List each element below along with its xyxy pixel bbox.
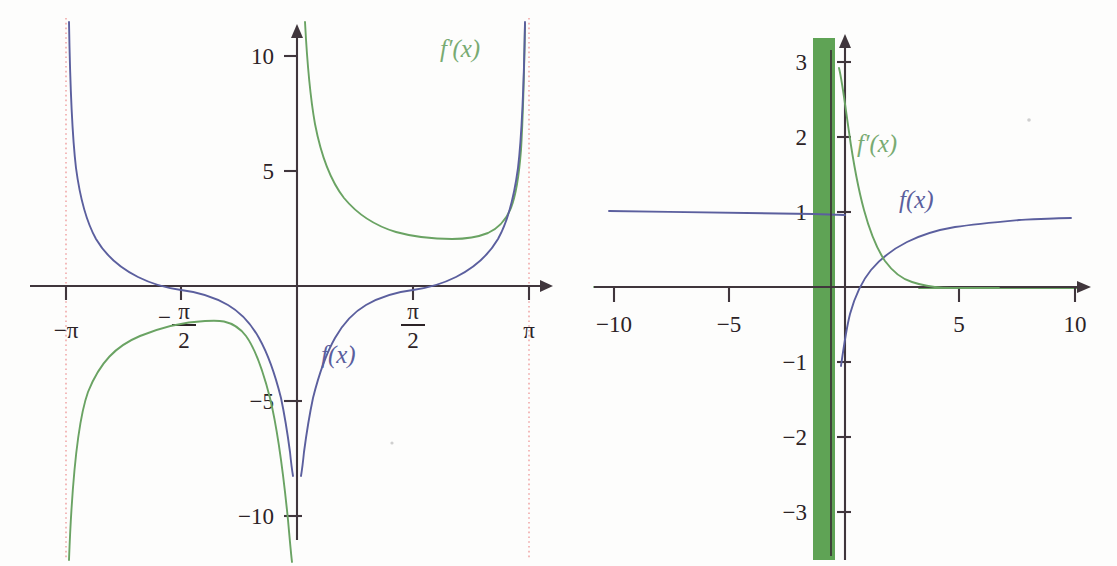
- curve-f-left-arm: [609, 211, 845, 215]
- scan-speck: [1027, 118, 1031, 122]
- y-axis-arrow: [839, 34, 851, 48]
- curve-f-right-arm: [841, 218, 1071, 366]
- x-tick-label-neg-half-pi-numerator: π: [178, 299, 190, 324]
- x-tick-label-half-pi: π 2: [401, 299, 425, 353]
- y-tick-label-neg-1: −1: [783, 350, 807, 375]
- y-tick-label-3: 3: [796, 50, 808, 75]
- right-graph-svg: −10 −5 5 10 3 2 1 −1 −2 −3: [559, 0, 1117, 566]
- curve-f-prime-tail: [839, 68, 999, 288]
- left-label-f-prime: f′(x): [440, 35, 480, 63]
- left-graph-panel: 10 5 −5 −10 −π − π 2 π 2 π: [0, 0, 559, 566]
- figure-container: 10 5 −5 −10 −π − π 2 π 2 π: [0, 0, 1117, 566]
- x-tick-label-neg-10: −10: [596, 312, 632, 337]
- y-tick-label-neg-10: −10: [238, 504, 274, 529]
- right-graph-panel: −10 −5 5 10 3 2 1 −1 −2 −3: [559, 0, 1117, 566]
- y-tick-label-2: 2: [796, 125, 808, 150]
- y-axis-arrow: [291, 24, 303, 38]
- left-graph-svg: 10 5 −5 −10 −π − π 2 π 2 π: [0, 0, 559, 566]
- x-tick-label-pi: π: [523, 318, 535, 343]
- x-tick-label-half-pi-denominator: 2: [407, 328, 419, 353]
- x-tick-label-neg-pi: −π: [54, 318, 79, 343]
- x-tick-label-10: 10: [1064, 312, 1087, 337]
- y-tick-label-neg-2: −2: [783, 425, 807, 450]
- right-label-f-prime: f′(x): [857, 130, 897, 158]
- x-tick-label-half-pi-numerator: π: [407, 299, 419, 324]
- left-label-f: f(x): [321, 341, 356, 369]
- x-tick-label-neg-5: −5: [717, 312, 741, 337]
- right-label-f: f(x): [899, 186, 934, 214]
- y-tick-label-neg-3: −3: [783, 500, 807, 525]
- x-axis-arrow: [1077, 281, 1091, 293]
- x-tick-label-neg-half-pi: − π 2: [158, 299, 196, 353]
- y-tick-label-10: 10: [251, 44, 274, 69]
- y-tick-label-1: 1: [796, 200, 808, 225]
- curve-f-right: [301, 22, 525, 476]
- y-tick-label-5: 5: [263, 159, 275, 184]
- scan-speck: [390, 441, 393, 444]
- x-tick-label-5: 5: [953, 312, 965, 337]
- x-tick-label-neg-half-pi-denominator: 2: [178, 328, 190, 353]
- x-axis-arrow: [540, 280, 553, 292]
- curve-f-prime-right-branch: [305, 22, 525, 239]
